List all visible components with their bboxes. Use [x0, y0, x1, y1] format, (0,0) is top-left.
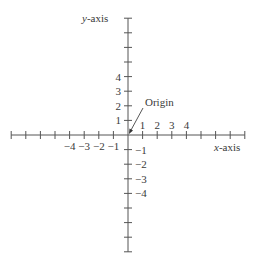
- x-tick-label: 1: [140, 119, 146, 131]
- y-tick-label: 1: [116, 114, 122, 126]
- y-tick-label: 3: [116, 85, 122, 97]
- y-tick-label: −3: [135, 173, 147, 185]
- x-axis-label: x-axis: [213, 141, 240, 153]
- x-tick-label: −3: [78, 140, 90, 152]
- y-tick-label: 2: [116, 100, 122, 112]
- origin-label: Origin: [145, 96, 174, 108]
- axes: [11, 18, 245, 252]
- origin-annotation: Origin: [129, 96, 174, 134]
- y-tick-label: −1: [135, 144, 147, 156]
- y-tick-label: −4: [135, 187, 147, 199]
- y-tick-label: −2: [135, 158, 147, 170]
- y-axis-label: y-axis: [81, 12, 108, 24]
- x-tick-label: 4: [184, 119, 190, 131]
- coordinate-plane: −4−3−2−11234 4321−1−2−3−4 x-axis y-axis …: [0, 0, 253, 259]
- x-tick-label: 3: [169, 119, 175, 131]
- x-tick-label: 2: [154, 119, 160, 131]
- x-tick-label: −2: [93, 140, 105, 152]
- x-tick-label: −4: [64, 140, 76, 152]
- x-tick-label: −1: [108, 140, 120, 152]
- y-tick-label: 4: [116, 71, 122, 83]
